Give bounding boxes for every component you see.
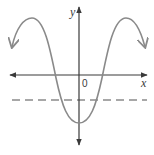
y-axis-label: y	[69, 5, 76, 19]
graph-figure: y x 0	[0, 0, 154, 155]
origin-label: 0	[82, 78, 88, 89]
x-axis-label: x	[140, 76, 147, 90]
